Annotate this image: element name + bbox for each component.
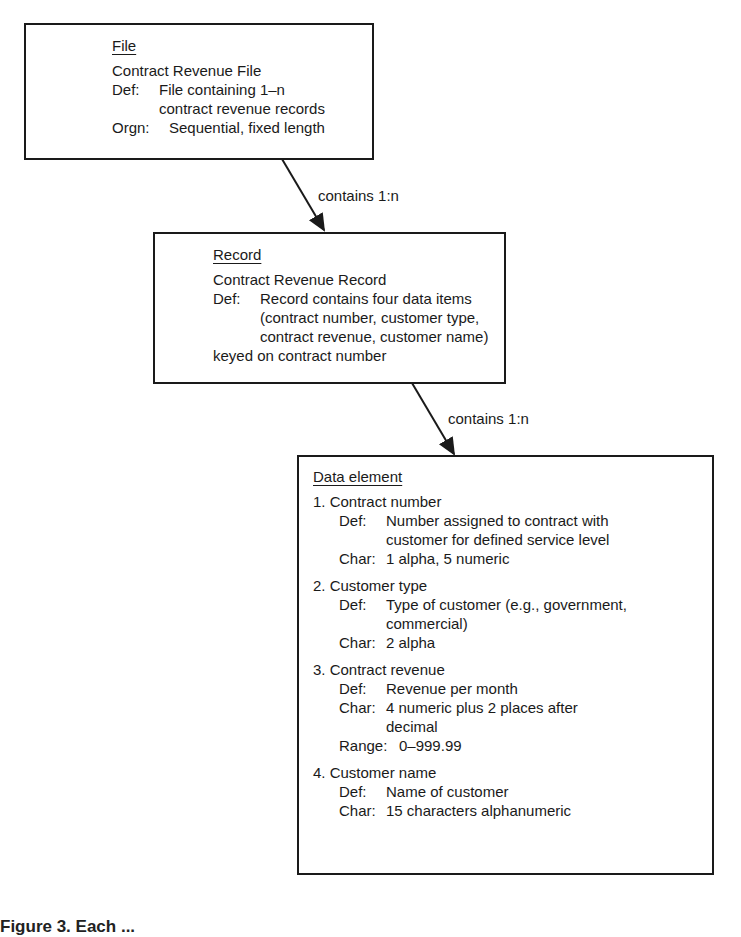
file-def-line2: contract revenue records <box>112 99 372 118</box>
file-heading: File <box>112 36 372 55</box>
char-label: Char: <box>339 549 386 568</box>
char-label: Char: <box>339 801 386 820</box>
record-box: Record Contract Revenue Record Def: Reco… <box>153 232 506 384</box>
file-orgn-value: Sequential, fixed length <box>169 118 325 137</box>
file-name: Contract Revenue File <box>112 61 372 80</box>
def-label: Def: <box>339 595 386 614</box>
arrow2-label: contains 1:n <box>448 410 529 427</box>
def-line: commercial) <box>339 614 712 633</box>
char-line: decimal <box>339 717 712 736</box>
arrow1-label: contains 1:n <box>318 187 399 204</box>
record-def-line: keyed on contract number <box>213 346 504 365</box>
item-title: 3. Contract revenue <box>313 660 712 679</box>
file-orgn-label: Orgn: <box>112 118 169 137</box>
char-line: 2 alpha <box>386 633 435 652</box>
char-line: 4 numeric plus 2 places after <box>386 698 578 717</box>
def-label: Def: <box>339 782 386 801</box>
record-def-label: Def: <box>213 289 260 308</box>
item-title: 4. Customer name <box>313 763 712 782</box>
char-label: Char: <box>339 633 386 652</box>
def-line: Revenue per month <box>386 679 518 698</box>
record-heading: Record <box>213 245 504 264</box>
record-name: Contract Revenue Record <box>213 270 504 289</box>
file-def-label: Def: <box>112 80 159 99</box>
range-value: 0–999.99 <box>399 736 462 755</box>
char-line: 1 alpha, 5 numeric <box>386 549 509 568</box>
def-line: customer for defined service level <box>339 530 712 549</box>
element-item-customer-name: 4. Customer name Def:Name of customer Ch… <box>313 763 712 820</box>
def-line: Type of customer (e.g., government, <box>386 595 627 614</box>
element-item-contract-number: 1. Contract number Def:Number assigned t… <box>313 492 712 568</box>
element-heading: Data element <box>313 467 712 486</box>
item-title: 1. Contract number <box>313 492 712 511</box>
data-element-box: Data element 1. Contract number Def:Numb… <box>297 455 714 875</box>
element-item-contract-revenue: 3. Contract revenue Def:Revenue per mont… <box>313 660 712 755</box>
range-label: Range: <box>339 736 399 755</box>
record-def-line: Record contains four data items <box>260 289 472 308</box>
item-title: 2. Customer type <box>313 576 712 595</box>
file-def-line1: File containing 1–n <box>159 80 285 99</box>
def-line: Number assigned to contract with <box>386 511 609 530</box>
file-box: File Contract Revenue File Def: File con… <box>24 23 374 160</box>
element-item-customer-type: 2. Customer type Def:Type of customer (e… <box>313 576 712 652</box>
def-line: Name of customer <box>386 782 509 801</box>
char-label: Char: <box>339 698 386 717</box>
record-def-line: contract revenue, customer name) <box>213 327 504 346</box>
figure-caption: Figure 3. Each ... <box>0 917 135 937</box>
record-def-line: (contract number, customer type, <box>213 308 504 327</box>
def-label: Def: <box>339 679 386 698</box>
def-label: Def: <box>339 511 386 530</box>
char-line: 15 characters alphanumeric <box>386 801 571 820</box>
